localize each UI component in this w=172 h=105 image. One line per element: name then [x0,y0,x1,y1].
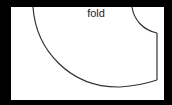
outer-curve [33,7,157,87]
inner-notch-curve [132,7,157,33]
fold-label: fold [76,7,116,19]
top-border [0,0,172,7]
